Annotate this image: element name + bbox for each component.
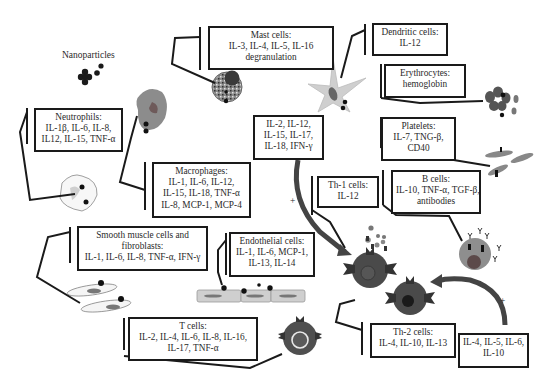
box-line: IL-1β, IL-6, IL-8, — [39, 123, 118, 134]
neutrophil-icon — [136, 89, 167, 133]
erythrocytes-box: Erythrocytes: hemoglobin — [384, 64, 466, 98]
box-line: IL-10, TNF-α, TGF-β, — [396, 185, 476, 196]
box-line: hemoglobin — [389, 79, 461, 90]
box-line: IL-2, IL-4, IL-6, IL-8, IL-16, — [133, 332, 253, 343]
macrophages-box: Macrophages: IL-1, IL-6, IL-12, IL-15, I… — [152, 162, 251, 218]
box-title: Endothelial cells: — [234, 236, 310, 247]
th2-cells-box: Th-2 cells: IL-4, IL-10, IL-13 — [370, 323, 456, 358]
neutrophils-box: Neutrophils: IL-1β, IL-6, IL-8, IL12, IL… — [34, 108, 123, 152]
box-title: Mast cells: — [213, 30, 329, 41]
box-line: IL-12 — [377, 38, 443, 49]
box-line: IL-1, IL-6, IL-12, — [157, 177, 246, 188]
smooth-muscle-cells-icon — [67, 280, 132, 314]
box-line: IL12, IL-15, TNF-α — [39, 134, 118, 145]
platelets-box: Platelets: IL-7, TNG-β, CD40 — [381, 117, 456, 161]
box-line: degranulation — [213, 52, 329, 63]
mast-cells-box: Mast cells: IL-3, IL-4, IL-5, IL-16 degr… — [208, 26, 334, 70]
t-cell-icon — [278, 316, 322, 355]
th1-cells-box: Th-1 cells: IL-12 — [317, 176, 379, 208]
macrophage-icon — [60, 175, 97, 211]
box-title: Smooth muscle cells and — [82, 230, 203, 241]
platelets-icon — [485, 147, 535, 177]
arrow-th2-stimulation — [430, 274, 505, 325]
cytokines-th1-box: IL-2, IL-12, IL-15, IL-17, IL-18, IFN-γ — [253, 115, 324, 160]
erythrocytes-icon — [485, 87, 519, 118]
box-title: Neutrophils: — [39, 112, 118, 123]
box-line: IL-8, MCP-1, MCP-4 — [157, 200, 246, 211]
box-line: IL-1, IL-6, MCP-1, — [234, 247, 310, 258]
box-title: Erythrocytes: — [389, 68, 461, 79]
b-cell-icon — [459, 228, 501, 270]
th1-cell-icon — [343, 225, 397, 288]
plus-sign-right: + — [500, 296, 505, 306]
box-title: Th-2 cells: — [375, 327, 451, 338]
endothelial-cells-icon — [197, 283, 305, 302]
box-line: IL-2, IL-12, — [258, 119, 319, 130]
box-line: IL-10 — [463, 348, 524, 359]
cytokines-th2-box: IL-4, IL-5, IL-6, IL-10 — [458, 333, 529, 368]
b-cells-box: B cells: IL-10, TNF-α, TGF-β, antibodies — [391, 170, 481, 214]
t-cells-box: T cells: IL-2, IL-4, IL-6, IL-8, IL-16, … — [128, 317, 258, 361]
box-line: antibodies — [396, 196, 476, 207]
box-line: IL-13, IL-14 — [234, 258, 310, 269]
box-line: fibroblasts: — [82, 241, 203, 252]
box-line: IL-15, IL-17, — [258, 130, 319, 141]
smooth-muscle-box: Smooth muscle cells and fibroblasts: IL-… — [77, 226, 208, 271]
box-line: IL-3, IL-4, IL-5, IL-16 — [213, 41, 329, 52]
dendritic-cells-box: Dendritic cells: IL-12 — [372, 23, 448, 56]
nanoparticles-label: Nanoparticles — [62, 50, 115, 60]
box-line: IL-7, TNG-β, — [386, 132, 451, 143]
plus-sign-left: + — [290, 196, 295, 206]
box-line: IL-12 — [322, 191, 374, 202]
box-line: IL-4, IL-5, IL-6, — [463, 337, 524, 348]
box-title: Macrophages: — [157, 166, 246, 177]
mast-cell-icon — [212, 71, 242, 104]
box-title: Dendritic cells: — [377, 27, 443, 38]
box-line: IL-18, IFN-γ — [258, 141, 319, 152]
endothelial-cells-box: Endothelial cells: IL-1, IL-6, MCP-1, IL… — [229, 232, 315, 277]
nanoparticles-icon — [78, 63, 104, 85]
th2-cell-icon — [385, 276, 435, 315]
box-line: IL-4, IL-10, IL-13 — [375, 338, 451, 349]
box-title: Th-1 cells: — [322, 180, 374, 191]
box-title: Platelets: — [386, 121, 451, 132]
box-title: T cells: — [133, 321, 253, 332]
box-line: IL-15, IL-18, TNF-α — [157, 188, 246, 199]
box-line: IL-1, IL-6, IL-8, TNF-α, IFN-γ — [82, 252, 203, 263]
box-title: B cells: — [396, 174, 476, 185]
box-line: IL-17, TNF-α — [133, 343, 253, 354]
box-line: CD40 — [386, 143, 451, 154]
